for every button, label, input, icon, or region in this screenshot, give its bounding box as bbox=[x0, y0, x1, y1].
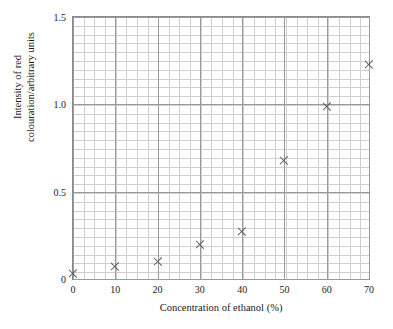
y-axis-title-line-2: colouration/arbitrary units bbox=[24, 0, 37, 187]
plot-area bbox=[72, 16, 370, 280]
y-gridline-major bbox=[73, 104, 369, 105]
y-gridline-major bbox=[73, 192, 369, 193]
x-gridline-major bbox=[200, 17, 201, 279]
y-tick-label: 0 bbox=[40, 274, 66, 285]
x-tick-label: 30 bbox=[195, 284, 205, 295]
y-tick-label: 1.5 bbox=[40, 12, 66, 23]
x-tick-label: 20 bbox=[153, 284, 163, 295]
x-gridline-major bbox=[369, 17, 370, 279]
x-tick-label: 50 bbox=[279, 284, 289, 295]
y-gridline-major bbox=[73, 17, 369, 18]
x-tick-label: 0 bbox=[71, 284, 76, 295]
y-axis-title: Intensity of red colouration/arbitrary u… bbox=[11, 0, 37, 187]
x-gridline-major bbox=[284, 17, 285, 279]
y-tick-label: 0.5 bbox=[40, 186, 66, 197]
x-gridline-major bbox=[73, 17, 74, 279]
x-tick-label: 70 bbox=[364, 284, 374, 295]
y-axis-title-line-1: Intensity of red bbox=[11, 0, 24, 187]
scatter-chart: Concentration of ethanol (%) Intensity o… bbox=[0, 0, 393, 329]
y-tick-label: 1.0 bbox=[40, 99, 66, 110]
x-gridline-major bbox=[242, 17, 243, 279]
x-gridline-major bbox=[158, 17, 159, 279]
x-gridline-major bbox=[115, 17, 116, 279]
x-axis-title: Concentration of ethanol (%) bbox=[72, 302, 370, 313]
x-tick-label: 10 bbox=[110, 284, 120, 295]
x-tick-label: 40 bbox=[237, 284, 247, 295]
x-tick-label: 60 bbox=[322, 284, 332, 295]
y-gridline-major bbox=[73, 279, 369, 280]
x-gridline-major bbox=[327, 17, 328, 279]
